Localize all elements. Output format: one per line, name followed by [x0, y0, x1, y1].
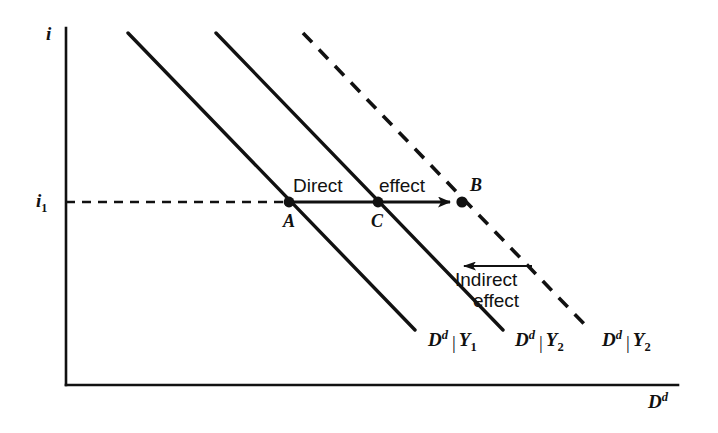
point-label-A: A: [283, 212, 295, 230]
x-axis-label-base: D: [648, 391, 662, 412]
curve-1-label-cond-base: Y: [459, 329, 471, 350]
point-label-B: B: [470, 176, 482, 194]
curve-2-label-bar: |: [539, 333, 543, 352]
curve-1-label-cond-subscript: 1: [470, 340, 476, 354]
y-tick-label-i1: i1: [36, 191, 47, 210]
curve-2-label-cond-base: Y: [546, 329, 558, 350]
curve-1-label-superscript: d: [442, 328, 448, 342]
point-A-marker: [284, 197, 295, 208]
x-axis-label: Dd: [648, 392, 668, 411]
indirect-effect-word-2: effect: [473, 291, 519, 310]
demand-curve-2-label: Dd|Y2: [515, 330, 564, 349]
curve-1-label-base: D: [428, 329, 442, 350]
point-B-marker: [456, 196, 467, 207]
curve-2-label-superscript: d: [529, 328, 535, 342]
curve-3-label-cond-base: Y: [633, 329, 645, 350]
direct-effect-word-2: effect: [379, 176, 425, 195]
curve-2-label-cond-subscript: 2: [557, 340, 563, 354]
direct-effect-word-1: Direct: [293, 176, 343, 195]
diagram-canvas: [0, 0, 718, 433]
y-axis-label: i: [46, 24, 51, 43]
demand-curve-1-label: Dd|Y1: [428, 330, 477, 349]
curve-2-label-base: D: [515, 329, 529, 350]
y-tick-label-subscript: 1: [41, 201, 47, 215]
money-demand-diagram: i Dd i1 A C B Direct effect Indirect eff…: [0, 0, 718, 433]
demand-curve-1: [128, 33, 415, 330]
x-axis-label-superscript: d: [662, 390, 668, 404]
axes-group: [66, 28, 678, 385]
point-C-marker: [373, 197, 384, 208]
curve-3-label-base: D: [602, 329, 616, 350]
curve-1-label-bar: |: [452, 333, 456, 352]
curve-3-label-bar: |: [626, 333, 630, 352]
indirect-effect-word-1: Indirect: [455, 270, 517, 289]
curve-3-label-cond-subscript: 2: [644, 340, 650, 354]
demand-curve-3: [303, 33, 590, 330]
point-label-C: C: [371, 212, 383, 230]
curve-3-label-superscript: d: [616, 328, 622, 342]
demand-curve-3-label: Dd|Y2: [602, 330, 651, 349]
